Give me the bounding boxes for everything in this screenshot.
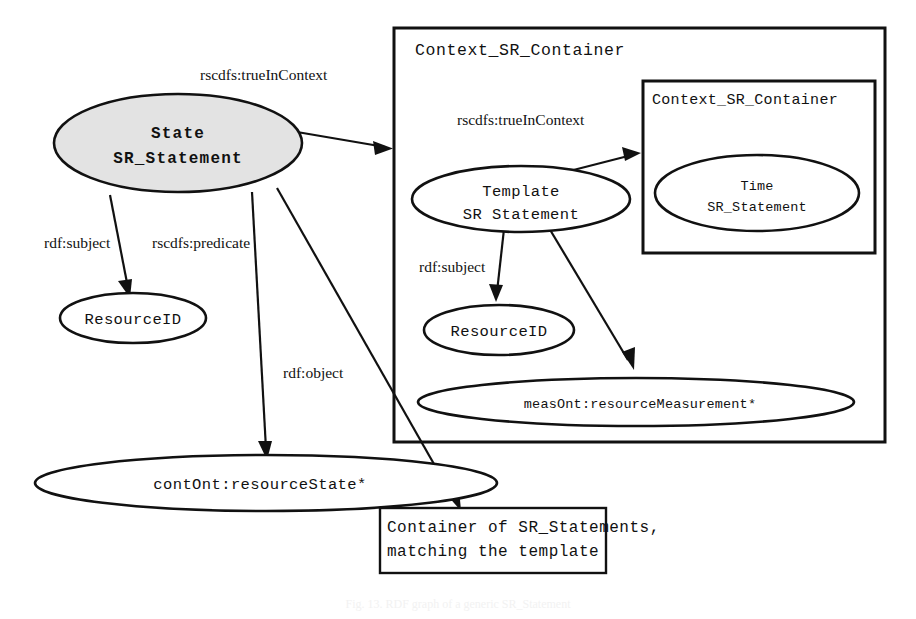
node-state-sr-statement[interactable]: State SR_Statement — [54, 94, 302, 192]
inner-context-container-title: Context_SR_Container — [652, 92, 838, 109]
node-resourceid-right[interactable]: ResourceID — [424, 305, 574, 355]
node-measont-resourcemeasurement[interactable]: measOnt:resourceMeasurement* — [418, 378, 854, 426]
diagram-canvas: Context_SR_Container Context_SR_Containe… — [0, 0, 916, 619]
node-measont-resourcemeasurement-label: measOnt:resourceMeasurement* — [524, 397, 756, 412]
node-template-sr-statement[interactable]: Template SR Statement — [412, 166, 630, 232]
arrowhead-template-to-inner — [622, 147, 641, 161]
figure-caption: Fig. 13. RDF graph of a generic SR_State… — [346, 597, 572, 611]
edge-state-to-outer-container — [297, 132, 393, 155]
edge-label-rdf-object: rdf:object — [283, 364, 344, 381]
edge-label-rdf-subject-right: rdf:subject — [419, 258, 486, 275]
edge-label-state-to-outer: rscdfs:trueInContext — [200, 66, 328, 83]
outer-context-container-title: Context_SR_Container — [415, 41, 625, 60]
node-time-sr-statement[interactable]: Time SR_Statement — [655, 155, 859, 231]
node-resourceid-left[interactable]: ResourceID — [60, 293, 206, 343]
edge-state-to-resourceid — [110, 195, 132, 298]
node-contont-resourcestate-label: contOnt:resourceState* — [153, 476, 366, 494]
arrowhead-template-to-resourceid — [489, 284, 503, 302]
node-template-sr-statement-line1: Template — [482, 183, 560, 201]
edge-label-template-true-in-context: rscdfs:trueInContext — [457, 111, 585, 128]
box-container-note-line2: matching the template — [387, 543, 599, 561]
node-contont-resourcestate[interactable]: contOnt:resourceState* — [35, 455, 497, 511]
edge-template-to-measont — [549, 228, 635, 370]
node-state-sr-statement-line1: State — [151, 125, 205, 143]
arrowhead-state-to-outer — [373, 141, 393, 155]
box-container-note-shape — [380, 508, 606, 573]
rdf-graph-diagram: Context_SR_Container Context_SR_Containe… — [0, 0, 916, 619]
node-state-sr-statement-shape — [54, 94, 302, 192]
edge-label-rdf-subject-left: rdf:subject — [44, 234, 111, 251]
edge-state-to-contont — [252, 192, 272, 460]
edge-template-to-resourceid — [489, 229, 504, 302]
arrowhead-template-to-measont — [622, 347, 635, 370]
node-resourceid-right-label: ResourceID — [450, 323, 547, 341]
node-template-sr-statement-line2: SR Statement — [463, 206, 579, 224]
node-resourceid-left-label: ResourceID — [84, 311, 181, 329]
box-container-note-line1: Container of SR_Statements, — [387, 519, 660, 537]
node-state-sr-statement-line2: SR_Statement — [113, 150, 243, 168]
node-time-sr-statement-line2: SR_Statement — [707, 200, 807, 215]
box-container-note: Container of SR_Statements, matching the… — [380, 508, 660, 573]
edge-label-rscdfs-predicate-left: rscdfs:predicate — [152, 234, 250, 251]
node-time-sr-statement-line1: Time — [740, 179, 773, 194]
